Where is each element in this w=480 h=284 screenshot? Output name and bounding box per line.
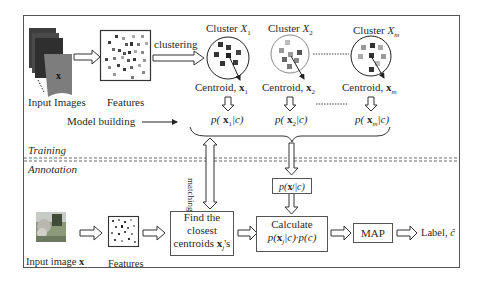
arrow-down-m-icon xyxy=(365,97,377,111)
annotation-section-label: Annotation xyxy=(28,163,77,175)
input-images-label: Input Images xyxy=(28,96,86,108)
model-brace xyxy=(190,127,390,142)
arrow-image-to-features-icon xyxy=(80,226,102,240)
map-box: MAP xyxy=(353,223,393,243)
matching-label: matching xyxy=(186,178,195,212)
find-box-line3: centroids xj's xyxy=(174,237,231,255)
clustering-label: clustering xyxy=(154,38,197,50)
arrow-down-1-icon xyxy=(222,97,234,111)
input-images-stack-icon xyxy=(29,28,72,97)
cluster-1-title: Cluster X1 xyxy=(206,22,251,37)
arrow-features-to-find-icon xyxy=(143,226,165,240)
training-section-label: Training xyxy=(28,144,66,156)
calculate-box: Calculate p(xj|c)·p(c) xyxy=(256,216,328,252)
calc-box-line2: p(xj|c)·p(c) xyxy=(268,231,317,249)
arrow-images-to-features-icon xyxy=(74,50,100,64)
diagram-graphics xyxy=(0,0,480,284)
input-image-thumbnail xyxy=(36,212,66,242)
cluster-m-title: Cluster Xm xyxy=(353,24,399,39)
prob-xj-box: p( xj|c) xyxy=(272,178,312,194)
input-images-symbol: x xyxy=(56,70,61,81)
arrow-brace-to-prob-icon xyxy=(285,143,298,175)
cluster-2-title: Cluster X2 xyxy=(268,22,313,37)
output-label: Label, ĉ xyxy=(421,227,455,238)
matching-double-arrow-icon xyxy=(203,138,217,209)
prob-1-label: p( x1|c) xyxy=(211,113,244,128)
centroid-m-label: Centroid, xm xyxy=(342,81,397,96)
find-closest-centroids-box: Find the closest centroids xj's xyxy=(170,211,234,256)
prob-m-label: p( xm|c) xyxy=(355,113,389,128)
arrow-clustering-icon xyxy=(153,51,204,65)
arrow-find-to-calc-icon xyxy=(238,226,257,240)
prob-2-label: p( x2|c) xyxy=(275,113,308,128)
input-image-label: Input image x xyxy=(26,256,84,267)
features-label-training: Features xyxy=(107,96,144,108)
features-label-annotation: Features xyxy=(108,258,144,269)
arrow-calc-to-map-icon xyxy=(331,226,351,240)
centroid-2-label: Centroid, x2 xyxy=(262,81,315,96)
arrow-map-to-label-icon xyxy=(397,226,417,240)
centroid-1-label: Centroid, x1 xyxy=(195,81,248,96)
find-box-line1: Find the xyxy=(184,211,220,224)
model-building-label: Model building xyxy=(67,115,135,127)
arrow-down-2-icon xyxy=(284,97,296,111)
arrow-prob-to-calc-icon xyxy=(285,193,298,214)
find-box-line2: closest xyxy=(187,224,217,237)
calc-box-line1: Calculate xyxy=(271,218,313,231)
